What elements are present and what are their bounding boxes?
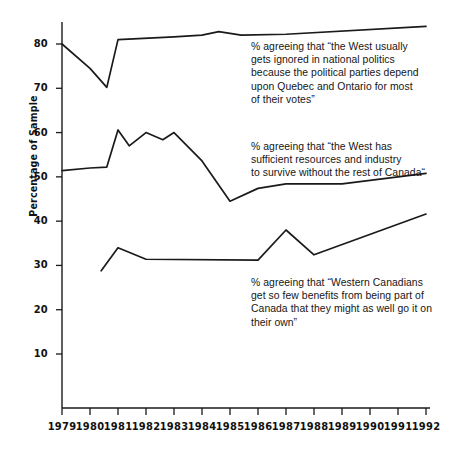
annotation-line: % agreeing that “the West has (251, 140, 456, 153)
y-axis-tick-label: 40 (22, 214, 48, 227)
annotation-line: get so few benefits from being part of (251, 289, 456, 302)
annotation-line: gets ignored in national politics (251, 53, 456, 66)
annotation-line: their own” (251, 316, 456, 329)
annotation-line: because the political parties depend (251, 66, 456, 79)
y-axis-tick-label: 20 (22, 303, 48, 316)
y-axis-tick-label: 10 (22, 347, 48, 360)
annotation-line: % agreeing that “the West usually (251, 40, 456, 53)
annotation-line: % agreeing that “Western Canadians (251, 276, 456, 289)
annotation-sufficient-resources: % agreeing that “the West hassufficient … (251, 140, 456, 180)
annotation-line: to survive without the rest of Canada“ (251, 166, 456, 179)
annotation-line: upon Quebec and Ontario for most (251, 80, 456, 93)
y-axis-tick-label: 60 (22, 126, 48, 139)
y-axis-tick-label: 70 (22, 81, 48, 94)
series-line-2 (101, 214, 426, 271)
y-axis-ticks (56, 44, 62, 354)
y-axis-tick-label: 50 (22, 170, 48, 183)
chart-container: Percentage of Sample 1020304050607080 19… (0, 0, 460, 467)
y-axis-tick-label: 30 (22, 258, 48, 271)
annotation-line: of their votes” (251, 93, 456, 106)
annotation-line: Canada that they might as well go it on (251, 302, 456, 315)
annotation-few-benefits: % agreeing that “Western Canadiansget so… (251, 276, 456, 329)
x-axis-ticks (62, 408, 426, 415)
annotation-line: sufficient resources and industry (251, 153, 456, 166)
x-axis-tick-label: 1992 (409, 420, 443, 433)
y-axis-tick-label: 80 (22, 37, 48, 50)
annotation-west-ignored: % agreeing that “the West usuallygets ig… (251, 40, 456, 106)
